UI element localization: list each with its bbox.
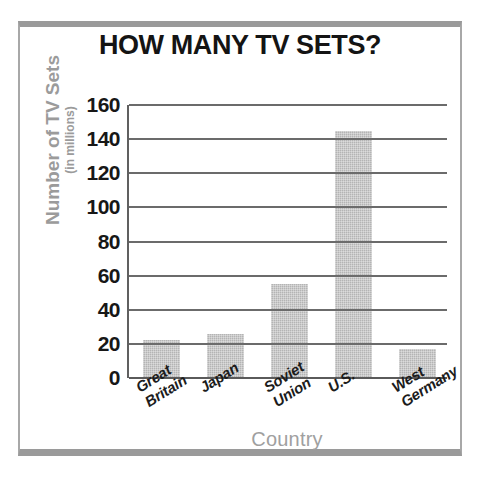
y-tick-120: 120 (86, 161, 120, 185)
gridline-80 (129, 241, 447, 243)
y-tick-60: 60 (98, 264, 120, 288)
y-tick-0: 0 (109, 366, 120, 390)
gridline-40 (129, 309, 447, 311)
y-tick-40: 40 (98, 298, 120, 322)
gridline-100 (129, 206, 447, 208)
y-tick-140: 140 (86, 127, 120, 151)
gridline-160 (129, 104, 447, 106)
gridline-60 (129, 275, 447, 277)
y-tick-160: 160 (86, 93, 120, 117)
gridline-140 (129, 138, 447, 140)
x-axis-title: Country (127, 428, 447, 451)
y-tick-80: 80 (98, 230, 120, 254)
y-tick-20: 20 (98, 332, 120, 356)
y-axis-tick-labels: 160140120100806040200 (60, 0, 120, 479)
chart-page: HOW MANY TV SETS? Number of TV Sets (in … (0, 0, 480, 479)
gridline-120 (129, 172, 447, 174)
y-tick-100: 100 (86, 195, 120, 219)
